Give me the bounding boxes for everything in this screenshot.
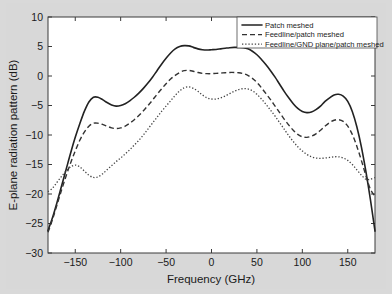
y-tick-label: −10 xyxy=(25,129,43,141)
chart-plot: −150−100−50050100150 −30−25−20−15−10−505… xyxy=(0,0,392,294)
x-tick-label: 100 xyxy=(294,256,312,268)
x-tick-label: 0 xyxy=(209,256,215,268)
y-tick-label: −5 xyxy=(31,99,43,111)
x-tick-label: 50 xyxy=(251,256,263,268)
x-axis-tick-labels: −150−100−50050100150 xyxy=(63,256,356,268)
y-tick-label: 5 xyxy=(37,40,43,52)
y-axis-title: E-plane radiation pattern (dB) xyxy=(7,59,19,210)
y-axis-tick-labels: −30−25−20−15−10−50510 xyxy=(25,11,43,259)
x-tick-label: −150 xyxy=(63,256,87,268)
y-tick-label: −25 xyxy=(25,217,43,229)
figure-container: −150−100−50050100150 −30−25−20−15−10−505… xyxy=(0,0,392,294)
legend-label: Feedline/GND plane/patch meshed xyxy=(265,40,384,49)
y-tick-label: 10 xyxy=(31,11,43,23)
y-tick-label: 0 xyxy=(37,70,43,82)
y-tick-label: −15 xyxy=(25,158,43,170)
x-tick-label: −100 xyxy=(109,256,133,268)
legend-label: Feedline/patch meshed xyxy=(265,30,344,39)
chart-legend: Patch meshedFeedline/patch meshedFeedlin… xyxy=(237,17,384,49)
plot-area-background xyxy=(48,17,375,253)
x-tick-label: −50 xyxy=(157,256,175,268)
legend-label: Patch meshed xyxy=(265,21,314,30)
y-tick-label: −30 xyxy=(25,247,43,259)
x-axis-title: Frequency (GHz) xyxy=(167,273,255,285)
x-tick-label: 150 xyxy=(339,256,357,268)
y-tick-label: −20 xyxy=(25,188,43,200)
